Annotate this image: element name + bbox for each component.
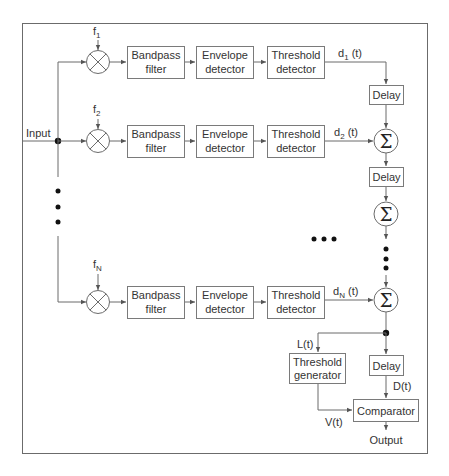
ellipsis-dot-icon: [384, 266, 389, 271]
svg-text:filter: filter: [146, 303, 167, 315]
svg-text:Threshold: Threshold: [272, 289, 321, 301]
svg-text:Delay: Delay: [372, 360, 401, 372]
summation-icon: Σ: [374, 288, 398, 312]
svg-text:Delay: Delay: [372, 89, 401, 101]
svg-text:detector: detector: [276, 63, 316, 75]
svg-text:detector: detector: [205, 142, 245, 154]
svg-text:Σ: Σ: [380, 131, 393, 152]
svg-text:Σ: Σ: [380, 204, 393, 225]
svg-text:detector: detector: [276, 303, 316, 315]
svg-text:Bandpass: Bandpass: [132, 49, 181, 61]
freq-label-2: f2: [93, 103, 101, 118]
svg-text:filter: filter: [146, 142, 167, 154]
svg-text:generator: generator: [294, 369, 341, 381]
signal-label-v: V(t): [325, 416, 343, 428]
mixer-icon: [87, 51, 110, 74]
mixer-icon: [87, 291, 110, 314]
summation-icon: Σ: [374, 202, 398, 226]
svg-text:Envelope: Envelope: [202, 49, 248, 61]
signal-label-d2: d2 (t): [334, 126, 358, 141]
svg-text:filter: filter: [146, 63, 167, 75]
svg-text:Threshold: Threshold: [272, 49, 321, 61]
svg-text:detector: detector: [205, 63, 245, 75]
svg-text:Σ: Σ: [380, 290, 393, 311]
signal-label-d: D(t): [393, 380, 411, 392]
ellipsis-dot-icon: [56, 220, 61, 225]
channel-row-2: f2 Bandpass filter Envelope detector Thr…: [58, 103, 373, 158]
block-diagram: Input f1 Bandpass filter Envelope detect…: [0, 0, 449, 476]
ellipsis-dot-icon: [56, 205, 61, 210]
signal-label-d1: d1 (t): [338, 47, 362, 62]
output-label: Output: [369, 434, 402, 446]
svg-text:Threshold: Threshold: [272, 128, 321, 140]
channel-row-n: fN Bandpass filter Envelope detector Thr…: [58, 258, 373, 319]
ellipsis-dot-icon: [384, 257, 389, 262]
svg-text:Envelope: Envelope: [202, 289, 248, 301]
svg-text:detector: detector: [276, 142, 316, 154]
svg-text:detector: detector: [205, 303, 245, 315]
freq-label-1: f1: [93, 25, 101, 40]
ellipsis-dot-icon: [332, 237, 337, 242]
summation-icon: Σ: [374, 129, 398, 153]
outer-frame: [23, 24, 428, 454]
svg-text:Delay: Delay: [372, 171, 401, 183]
mixer-icon: [87, 130, 110, 153]
ellipsis-dot-icon: [56, 189, 61, 194]
ellipsis-dot-icon: [322, 237, 327, 242]
ellipsis-dot-icon: [384, 247, 389, 252]
freq-label-n: fN: [93, 258, 102, 273]
ellipsis-dot-icon: [312, 237, 317, 242]
svg-text:Threshold: Threshold: [293, 356, 342, 368]
svg-text:Envelope: Envelope: [202, 128, 248, 140]
signal-label-l: L(t): [297, 338, 314, 350]
signal-label-dn: dN (t): [333, 285, 358, 300]
svg-text:Bandpass: Bandpass: [132, 128, 181, 140]
channel-row-1: f1 Bandpass filter Envelope detector Thr…: [58, 25, 386, 84]
input-label: Input: [26, 127, 50, 139]
svg-text:Comparator: Comparator: [357, 405, 415, 417]
svg-text:Bandpass: Bandpass: [132, 289, 181, 301]
